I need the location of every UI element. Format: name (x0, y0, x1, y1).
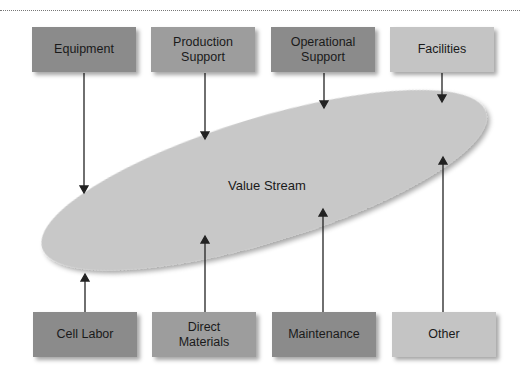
box-label: Cell Labor (57, 327, 114, 342)
box-facilities: Facilities (390, 27, 494, 72)
box-cell-labor: Cell Labor (33, 312, 137, 357)
box-maintenance: Maintenance (272, 312, 376, 357)
box-label: Equipment (54, 42, 114, 57)
box-label: Facilities (418, 42, 467, 57)
box-label: Direct Materials (169, 320, 239, 350)
box-label: Other (428, 327, 459, 342)
box-production-support: Production Support (151, 27, 255, 72)
box-label: Production Support (163, 35, 243, 65)
box-label: Operational Support (283, 35, 363, 65)
box-equipment: Equipment (32, 27, 136, 72)
arrow-cell-labor-icon (81, 274, 89, 281)
box-operational-support: Operational Support (271, 27, 375, 72)
value-stream-label: Value Stream (228, 178, 306, 193)
box-direct-materials: Direct Materials (152, 312, 256, 357)
box-other: Other (392, 312, 496, 357)
box-label: Maintenance (288, 327, 360, 342)
